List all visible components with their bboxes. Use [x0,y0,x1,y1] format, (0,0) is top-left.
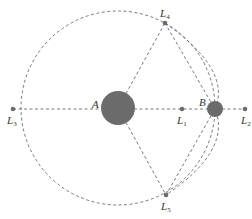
point-l3 [11,107,16,112]
point-l1 [180,107,185,112]
label-l2: L2 [240,114,251,128]
label-l4: L4 [159,7,170,21]
lagrange-diagram: A B L1 L2 L3 L4 L5 [0,0,252,219]
label-a: A [91,98,99,110]
point-l5 [164,193,169,198]
body-a [101,91,135,125]
line-l5-b [166,114,212,195]
label-l5: L5 [160,200,171,214]
point-l2 [243,107,248,112]
point-l4 [163,21,168,26]
label-l3: L3 [6,114,17,128]
line-l4-b [165,23,212,104]
label-b: B [199,96,206,108]
body-b [207,101,223,117]
label-l1: L1 [176,114,187,128]
